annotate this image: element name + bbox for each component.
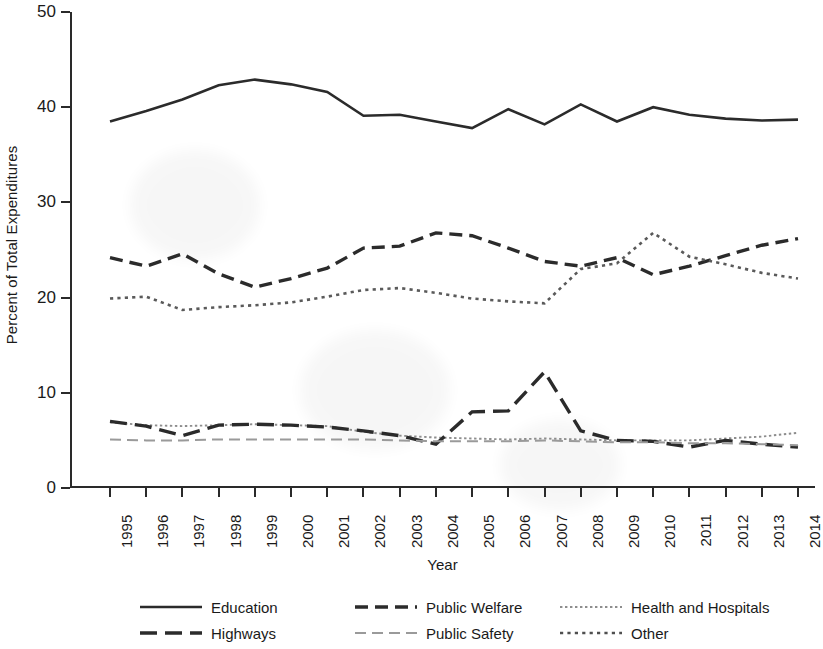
x-axis-tick-label: 2003 [408,515,425,548]
y-axis-title: Percent of Total Expenditures [0,0,24,490]
x-axis-tick [145,488,147,497]
legend-item[interactable]: Public Welfare [355,599,560,616]
x-axis-tick-label: 2006 [517,515,534,548]
x-axis-tick [109,488,111,497]
x-axis-tick-label: 1995 [118,515,135,548]
legend-item[interactable]: Public Safety [355,625,560,642]
y-axis-tick-label: 10 [37,383,56,403]
legend-item[interactable]: Other [560,625,800,642]
x-axis-tick-label: 1999 [263,515,280,548]
y-axis-tick [61,297,70,299]
legend-swatch [355,601,417,613]
x-axis-tick [725,488,727,497]
legend-swatch [140,601,202,613]
y-axis-tick [61,487,70,489]
x-axis-tick [471,488,473,497]
x-axis-tick-label: 2012 [734,515,751,548]
x-axis-tick-label: 2005 [480,515,497,548]
x-axis-tick [797,488,799,497]
x-axis-tick [435,488,437,497]
x-axis-tick-label: 2000 [299,515,316,548]
legend-item[interactable]: Education [140,599,355,616]
x-axis-tick-label: 2001 [335,515,352,548]
x-axis-tick [254,488,256,497]
series-lines [70,12,815,488]
x-axis-tick [616,488,618,497]
legend-item[interactable]: Health and Hospitals [560,599,800,616]
y-axis-tick [61,106,70,108]
x-axis-tick-label: 2013 [770,515,787,548]
legend-label: Public Welfare [426,599,522,616]
y-axis-tick-label: 20 [37,288,56,308]
y-axis-tick-label: 40 [37,97,56,117]
chart-legend: EducationPublic WelfareHealth and Hospit… [140,594,800,646]
legend-label: Highways [211,625,276,642]
legend-label: Public Safety [426,625,514,642]
x-axis-tick [580,488,582,497]
x-axis-tick [544,488,546,497]
legend-label: Education [211,599,278,616]
x-axis-title: Year [70,556,815,573]
plot-area: 01020304050 [70,12,815,488]
x-axis-tick [362,488,364,497]
x-axis-tick [218,488,220,497]
series-line [110,80,798,129]
y-axis-tick-label: 50 [37,2,56,22]
legend-swatch [560,601,622,613]
x-axis-tick-label: 2004 [444,515,461,548]
legend-label: Other [631,625,669,642]
x-axis-tick-label: 1997 [191,515,208,548]
x-axis-tick [181,488,183,497]
legend-swatch [140,627,202,639]
y-axis-tick-label: 30 [37,192,56,212]
x-axis-tick [326,488,328,497]
x-axis-tick [652,488,654,497]
legend-swatch [560,627,622,639]
y-axis-tick [61,201,70,203]
legend-swatch [355,627,417,639]
x-axis-tick [761,488,763,497]
legend-label: Health and Hospitals [631,599,769,616]
x-axis-tick-label: 2007 [553,515,570,548]
y-axis-tick-label: 0 [47,478,56,498]
x-axis-tick-label: 2010 [661,515,678,548]
series-line [110,372,798,447]
x-axis-tick [507,488,509,497]
x-axis-tick-label: 1996 [154,515,171,548]
x-axis-tick [290,488,292,497]
x-axis-tick-label: 2009 [625,515,642,548]
x-axis-tick-label: 1998 [227,515,244,548]
x-axis-tick [399,488,401,497]
x-axis-tick [688,488,690,497]
x-axis-tick-label: 2011 [697,514,714,546]
x-axis-tick-label: 2002 [372,515,389,548]
x-axis-tick-label: 2008 [589,515,606,548]
series-line [110,233,798,287]
y-axis-tick [61,11,70,13]
legend-item[interactable]: Highways [140,625,355,642]
y-axis-tick [61,392,70,394]
x-axis-tick-label: 2014 [806,515,823,548]
